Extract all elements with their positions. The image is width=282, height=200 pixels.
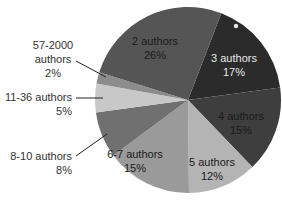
pie-chart-svg: 3 authors17%4 authors15%5 authors12%6-7 …: [0, 0, 282, 200]
slice-label: 57-2000authors2%: [33, 39, 73, 79]
slice-label: 8-10 authors8%: [10, 150, 72, 176]
pie-chart: 3 authors17%4 authors15%5 authors12%6-7 …: [0, 0, 282, 200]
slice-label: 11-36 authors5%: [5, 91, 73, 117]
pie-slices: [95, 7, 281, 193]
leader-line: [76, 134, 107, 156]
highlight-dot: [234, 24, 238, 28]
